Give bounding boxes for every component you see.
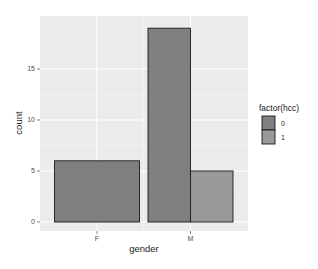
- bar-chart: 051015 FM gender count factor(hcc) 01: [0, 0, 318, 269]
- y-tick-label: 10: [27, 116, 35, 123]
- y-tick-label: 5: [31, 167, 35, 174]
- legend-title: factor(hcc): [259, 103, 299, 113]
- x-tick-label: F: [95, 235, 99, 242]
- y-tick-label: 15: [27, 65, 35, 72]
- y-tick-label: 0: [31, 218, 35, 225]
- bar-M-0: [148, 28, 191, 222]
- y-axis: 051015: [27, 65, 40, 225]
- x-axis: FM: [95, 231, 194, 242]
- bar-M-1: [191, 171, 234, 222]
- x-tick-label: M: [188, 235, 194, 242]
- legend: factor(hcc) 01: [259, 103, 299, 144]
- legend-key-0: [262, 116, 275, 130]
- legend-key-1: [262, 130, 275, 144]
- legend-label: 0: [281, 120, 285, 127]
- legend-label: 1: [281, 134, 285, 141]
- x-axis-title: gender: [129, 243, 159, 254]
- bar-F-0: [55, 161, 140, 222]
- y-axis-title: count: [13, 111, 24, 135]
